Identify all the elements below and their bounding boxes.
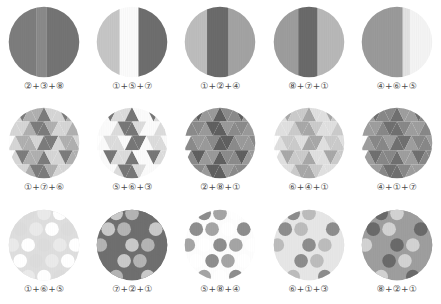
pattern-label: ⑥+①+③ <box>289 284 329 295</box>
pattern-label: ⑥+④+① <box>289 182 329 193</box>
pattern-disc-triangles <box>361 107 433 179</box>
pattern-label: ⑦+②+① <box>112 284 152 295</box>
pattern-disc-vertical-stripes <box>184 6 256 78</box>
pattern-cell: ④+①+⑦ <box>353 101 441 202</box>
pattern-disc-vertical-stripes <box>8 6 80 78</box>
pattern-label: ⑧+②+① <box>377 284 417 295</box>
pattern-label: ①+②+④ <box>200 81 240 92</box>
pattern-cell: ⑥+④+① <box>265 101 353 202</box>
pattern-label: ①+⑥+⑤ <box>24 284 64 295</box>
pattern-label: ④+⑥+⑤ <box>377 81 417 92</box>
pattern-disc-dots <box>8 209 80 281</box>
pattern-label: ②+⑧+① <box>200 182 240 193</box>
pattern-disc-triangles <box>96 107 168 179</box>
pattern-cell: ⑤+⑥+③ <box>88 101 176 202</box>
pattern-disc-vertical-stripes <box>96 6 168 78</box>
pattern-label: ⑧+⑦+① <box>289 81 329 92</box>
pattern-label: ⑤+⑧+④ <box>200 284 240 295</box>
pattern-cell: ⑦+②+① <box>88 203 176 304</box>
pattern-disc-dots <box>361 209 433 281</box>
pattern-cell: ①+⑤+⑦ <box>88 0 176 101</box>
pattern-cell: ①+⑦+⑥ <box>0 101 88 202</box>
pattern-cell: ②+⑧+① <box>176 101 264 202</box>
pattern-cell: ①+⑥+⑤ <box>0 203 88 304</box>
pattern-cell: ⑧+②+① <box>353 203 441 304</box>
pattern-disc-triangles <box>8 107 80 179</box>
pattern-disc-dots <box>273 209 345 281</box>
pattern-label: ⑤+⑥+③ <box>112 182 152 193</box>
pattern-disc-dots <box>96 209 168 281</box>
pattern-cell: ⑤+⑧+④ <box>176 203 264 304</box>
pattern-label: ④+①+⑦ <box>377 182 417 193</box>
pattern-cell: ⑥+①+③ <box>265 203 353 304</box>
pattern-disc-triangles <box>273 107 345 179</box>
pattern-cell: ①+②+④ <box>176 0 264 101</box>
pattern-disc-triangles <box>184 107 256 179</box>
pattern-disc-vertical-stripes <box>361 6 433 78</box>
pattern-label: ①+⑦+⑥ <box>24 182 64 193</box>
pattern-cell: ⑧+⑦+① <box>265 0 353 101</box>
pattern-disc-vertical-stripes <box>273 6 345 78</box>
pattern-disc-dots <box>184 209 256 281</box>
pattern-grid: ②+③+⑧①+⑤+⑦①+②+④⑧+⑦+①④+⑥+⑤①+⑦+⑥⑤+⑥+③②+⑧+①… <box>0 0 441 304</box>
pattern-cell: ④+⑥+⑤ <box>353 0 441 101</box>
pattern-label: ②+③+⑧ <box>24 81 64 92</box>
pattern-cell: ②+③+⑧ <box>0 0 88 101</box>
pattern-label: ①+⑤+⑦ <box>112 81 152 92</box>
